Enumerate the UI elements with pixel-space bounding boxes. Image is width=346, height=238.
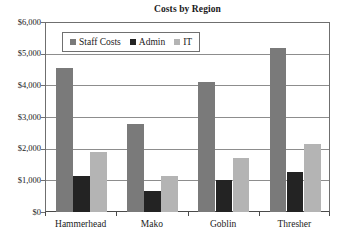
legend-swatch-icon (70, 39, 76, 45)
bar[interactable] (304, 144, 321, 212)
y-axis-labels: $0$1,000$2,000$3,000$4,000$5,000$6,000 (0, 22, 41, 212)
chart-screenshot: Costs by Region $0$1,000$2,000$3,000$4,0… (0, 0, 346, 238)
legend-label: IT (183, 37, 192, 47)
legend-swatch-icon (130, 39, 136, 45)
bar[interactable] (56, 68, 73, 212)
bar[interactable] (216, 180, 233, 212)
bar[interactable] (287, 172, 304, 212)
x-axis-tick-mark (259, 212, 260, 216)
x-axis-tick-mark (45, 212, 46, 216)
legend-label: Admin (139, 37, 165, 47)
x-axis-category-label: Hammerhead (45, 218, 116, 234)
x-axis-tick-mark (188, 212, 189, 216)
legend-item[interactable]: Staff Costs (70, 37, 121, 47)
x-axis-category-label: Thresher (259, 218, 330, 234)
x-axis-tick-mark (116, 212, 117, 216)
bar[interactable] (90, 152, 107, 212)
legend-swatch-icon (174, 39, 180, 45)
bar[interactable] (161, 176, 178, 212)
y-axis-tick-label: $1,000 (0, 176, 41, 185)
bar-group (270, 23, 321, 212)
legend-item[interactable]: IT (174, 37, 192, 47)
bar-group (198, 23, 249, 212)
chart-title: Costs by Region (45, 4, 330, 14)
y-axis-tick-label: $3,000 (0, 113, 41, 122)
y-axis-tick-label: $5,000 (0, 49, 41, 58)
x-axis-tick-mark (329, 212, 330, 216)
bar[interactable] (198, 82, 215, 212)
y-axis-tick-label: $2,000 (0, 144, 41, 153)
bar[interactable] (73, 176, 90, 212)
bar[interactable] (233, 158, 250, 212)
bar[interactable] (127, 124, 144, 212)
legend-item[interactable]: Admin (130, 37, 165, 47)
x-axis-category-label: Goblin (188, 218, 259, 234)
chart-legend: Staff CostsAdminIT (62, 32, 200, 52)
x-axis-category-label: Mako (116, 218, 187, 234)
x-axis-labels: HammerheadMakoGoblinThresher (45, 218, 330, 234)
legend-label: Staff Costs (79, 37, 121, 47)
x-axis-ticks (45, 212, 330, 217)
y-axis-tick-label: $0 (0, 208, 41, 217)
y-axis-tick-label: $6,000 (0, 18, 41, 27)
y-axis-tick-label: $4,000 (0, 81, 41, 90)
bar[interactable] (270, 48, 287, 212)
bar[interactable] (144, 191, 161, 212)
